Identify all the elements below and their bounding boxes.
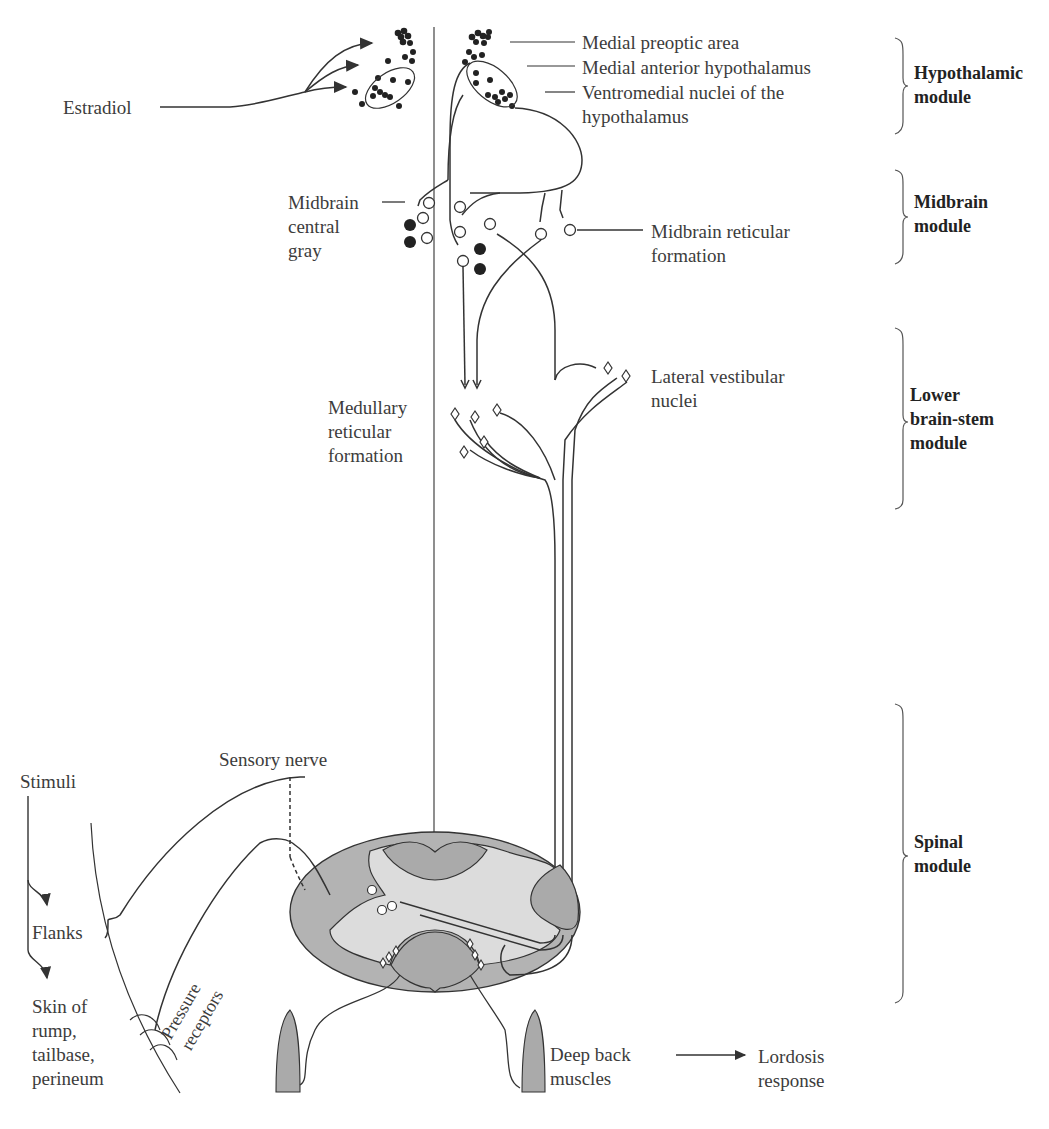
skin-label-3: tailbase, xyxy=(32,1043,95,1066)
deep-back-muscles xyxy=(276,975,545,1092)
midbrain-module-label-2: module xyxy=(914,215,971,238)
estradiol-arrows xyxy=(160,43,372,107)
medial-anterior-hypothalamus-label: Medial anterior hypothalamus xyxy=(582,56,811,79)
flanks-label: Flanks xyxy=(32,921,83,944)
midbrain-central-gray-label-3: gray xyxy=(288,239,322,262)
deep-back-muscles-label-1: Deep back xyxy=(550,1043,631,1066)
left-vmh-outline xyxy=(358,60,421,117)
skin-label-2: rump, xyxy=(32,1019,77,1042)
lordosis-response-label-2: response xyxy=(758,1069,824,1092)
midbrain-module-label-1: Midbrain xyxy=(914,191,988,214)
ventromedial-nuclei-label-1: Ventromedial nuclei of the xyxy=(582,81,784,104)
right-vmh-outline xyxy=(459,52,526,115)
midbrain-central-gray-label-1: Midbrain xyxy=(288,191,359,214)
skin-label-4: perineum xyxy=(32,1067,104,1090)
right-hypothalamic-nuclei xyxy=(462,29,515,109)
midbrain-projections xyxy=(461,234,555,388)
vestibular-diamonds xyxy=(604,362,630,382)
module-brackets xyxy=(895,38,908,1003)
deep-back-muscles-label-2: muscles xyxy=(550,1067,611,1090)
lateral-vestibular-label-2: nuclei xyxy=(651,389,697,412)
lordosis-circuit-diagram xyxy=(0,0,1049,1129)
stimuli-arrows xyxy=(28,796,47,978)
lower-brainstem-module-label-1: Lower xyxy=(910,384,960,407)
lower-brainstem-module-label-3: module xyxy=(910,432,967,455)
stimuli-label: Stimuli xyxy=(20,770,76,793)
midbrain-reticular-label-1: Midbrain reticular xyxy=(651,220,790,243)
spinal-module-label-1: Spinal xyxy=(914,831,963,854)
hypothalamic-module-label-2: module xyxy=(914,86,971,109)
lateral-vestibular-label-1: Lateral vestibular xyxy=(651,365,784,388)
lower-brainstem-module-label-2: brain-stem xyxy=(910,408,994,431)
medial-preoptic-area-label: Medial preoptic area xyxy=(582,31,739,54)
hypothalamic-module-label-1: Hypothalamic xyxy=(914,62,1023,85)
medullary-reticular-label-1: Medullary xyxy=(328,396,407,419)
vestibulospinal-tract xyxy=(555,364,627,935)
lordosis-response-label-1: Lordosis xyxy=(758,1045,825,1068)
ventromedial-nuclei-label-2: hypothalamus xyxy=(582,105,689,128)
midbrain-reticular-label-2: formation xyxy=(651,244,726,267)
skin-label-1: Skin of xyxy=(32,995,87,1018)
spinal-module-label-2: module xyxy=(914,855,971,878)
medullary-reticular-label-3: formation xyxy=(328,444,403,467)
estradiol-label: Estradiol xyxy=(63,96,132,119)
medullary-reticular-label-2: reticular xyxy=(328,420,391,443)
sensory-nerve-label: Sensory nerve xyxy=(219,748,327,771)
hypothalamic-leaders xyxy=(510,42,575,92)
midbrain-open-neurons xyxy=(418,198,576,267)
midbrain-central-gray-label-2: central xyxy=(288,215,340,238)
midbrain-filled-neurons xyxy=(404,219,486,275)
body-outline xyxy=(91,823,180,1093)
